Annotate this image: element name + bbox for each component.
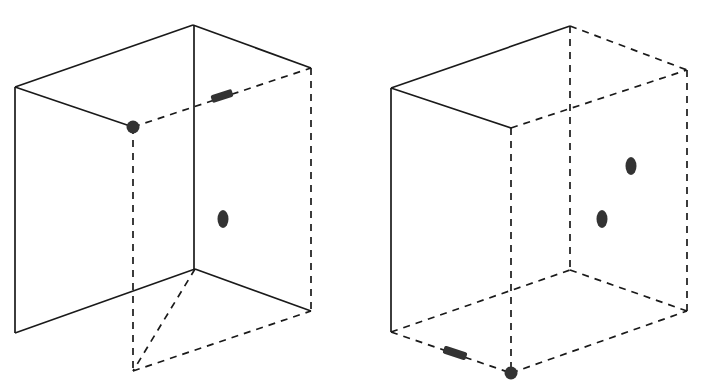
left-edge-bottom-left <box>15 269 195 333</box>
left-box-group <box>15 25 311 371</box>
right-box-group <box>391 26 687 380</box>
right-edge-top-inner-left <box>391 88 511 128</box>
figure-root: Two 3D wireframe rectangular boxes with … <box>0 0 712 392</box>
left-box-solid-edges <box>15 25 311 333</box>
right-edge-top-right <box>570 26 687 70</box>
left-corner-dot-marker <box>127 121 140 134</box>
right-edge-bottom-left <box>391 270 570 332</box>
right-edge-top-back-right <box>511 70 687 128</box>
left-edge-top-left <box>15 25 193 87</box>
right-edge-bottom-back-right <box>511 311 687 373</box>
right-interior-blob-upper-marker <box>626 157 637 175</box>
left-box-markers <box>127 89 234 228</box>
right-box-markers <box>442 157 636 380</box>
wireframe-diagram <box>0 0 712 392</box>
left-edge-top-inner-left <box>15 87 133 127</box>
left-edge-bottom-back-left <box>133 269 195 371</box>
right-edge-top-left <box>391 26 570 88</box>
left-edge-top-right <box>193 25 311 68</box>
right-box-dashed-edges <box>391 26 687 373</box>
right-corner-dot-marker <box>505 367 518 380</box>
right-edge-dash-marker <box>442 345 467 360</box>
left-interior-blob-marker <box>218 210 229 228</box>
right-edge-bottom-right <box>570 270 687 311</box>
left-edge-bottom-back-right <box>133 311 311 371</box>
left-edge-dash-marker <box>210 89 233 103</box>
right-box-solid-edges <box>391 26 570 332</box>
left-edge-bottom-right <box>195 269 311 311</box>
right-interior-blob-lower-marker <box>597 210 608 228</box>
